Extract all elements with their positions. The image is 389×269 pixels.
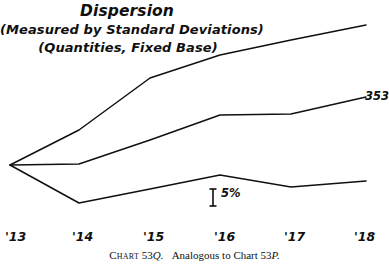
chart-subtitle-basis: (Quantities, Fixed Base) [6,39,250,57]
chart-figure: Dispersion (Measured by Standard Deviati… [0,0,389,269]
xtick-label-16: '16 [214,229,235,244]
caption-chart-word: Chart [109,249,139,261]
series-line-lower [10,165,366,203]
xtick-label-13: '13 [5,229,26,244]
series-line-middle [10,97,366,165]
chart-title: Dispersion [4,2,250,21]
series-end-label-353: 353 [365,89,389,103]
chart-title-block: Dispersion (Measured by Standard Deviati… [0,2,250,57]
xtick-label-14: '14 [72,229,93,244]
caption-chart-number: 53 [142,249,153,261]
caption-gap [163,249,171,261]
caption-chart-letter: Q. [153,249,164,261]
chart-caption: Chart 53Q. Analogous to Chart 53P. [0,249,389,261]
chart-subtitle-measure: (Measured by Standard Deviations) [0,21,250,39]
caption-reference-prefix: Analogous to Chart 53 [172,249,272,261]
scale-marker: 5% [208,186,241,200]
scale-marker-label: 5% [221,186,241,200]
xtick-label-18: '18 [354,229,375,244]
caption-reference-letter: P. [272,249,280,261]
xtick-label-17: '17 [284,229,305,244]
xtick-label-15: '15 [143,229,164,244]
